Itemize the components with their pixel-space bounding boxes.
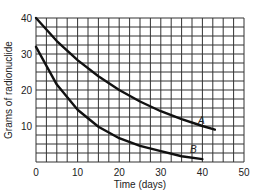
x-axis-label: Time (days): [114, 179, 166, 190]
x-tick-label: 20: [114, 167, 126, 178]
y-tick-label: 20: [21, 85, 33, 96]
curves: [36, 18, 215, 159]
y-tick-label: 30: [21, 49, 33, 60]
curve-a: [36, 18, 215, 130]
x-tick-label: 0: [33, 167, 39, 178]
grid: [36, 18, 244, 162]
x-tick-label: 50: [238, 167, 250, 178]
y-tick-label: 40: [21, 13, 33, 24]
y-axis-label: Grams of radionuclide: [3, 41, 14, 139]
curve-a-label: A: [197, 115, 205, 126]
x-tick-label: 30: [155, 167, 167, 178]
x-tick-label: 40: [197, 167, 209, 178]
x-tick-label: 10: [72, 167, 84, 178]
radionuclide-decay-chart: 0102030405010203040 Time (days) Grams of…: [0, 0, 253, 194]
y-tick-label: 10: [21, 121, 33, 132]
curve-b-label: B: [190, 144, 197, 155]
